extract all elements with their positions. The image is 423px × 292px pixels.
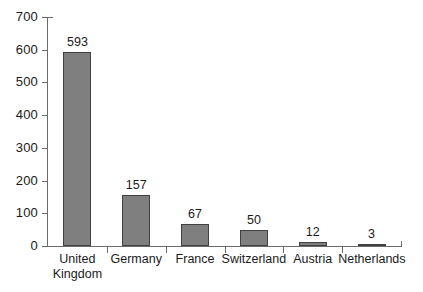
bar-value-label: 50 (247, 214, 261, 227)
x-axis-tick (283, 247, 284, 253)
bar-value-label: 157 (126, 179, 147, 192)
plot-area: 5931576750123 (48, 17, 401, 246)
y-axis-tick (42, 181, 48, 182)
y-axis-tick (42, 50, 48, 51)
bar[interactable] (299, 242, 327, 246)
x-axis-category-label: Netherlands (338, 252, 405, 267)
x-axis-category-label: United Kingdom (44, 252, 111, 281)
bar[interactable] (122, 195, 150, 246)
y-axis-tick (42, 148, 48, 149)
y-axis-tick-label: 200 (2, 174, 38, 187)
bar[interactable] (240, 230, 268, 246)
bar-chart: 7006005004003002001000 5931576750123 Uni… (0, 0, 423, 292)
y-axis-tick (42, 82, 48, 83)
bar-slot: 12 (283, 17, 342, 246)
x-axis-tick (107, 247, 108, 253)
bar-slot: 3 (342, 17, 401, 246)
x-axis-end-tick (401, 241, 402, 247)
bar-slot: 67 (166, 17, 225, 246)
x-axis-category-labels: United KingdomGermanyFranceSwitzerlandAu… (48, 252, 401, 292)
x-axis-category-label: France (162, 252, 229, 267)
bar[interactable] (63, 52, 91, 246)
bar[interactable] (358, 244, 386, 246)
x-axis-category-label: Germany (103, 252, 170, 267)
y-axis-tick-label: 500 (2, 75, 38, 88)
x-axis-tick (225, 247, 226, 253)
y-axis-tick (42, 213, 48, 214)
bar-value-label: 67 (188, 208, 202, 221)
x-axis-category-label: Austria (279, 252, 346, 267)
y-axis-tick-label: 600 (2, 43, 38, 56)
bar-value-label: 12 (306, 226, 320, 239)
bar-value-label: 3 (368, 228, 375, 241)
y-axis-tick (42, 115, 48, 116)
bar[interactable] (181, 224, 209, 246)
bar-slot: 593 (48, 17, 107, 246)
y-axis-tick-label: 400 (2, 108, 38, 121)
y-axis-labels: 7006005004003002001000 (0, 0, 38, 292)
bar-value-label: 593 (67, 36, 88, 49)
y-axis-tick-label: 0 (2, 239, 38, 252)
x-axis-tick (166, 247, 167, 253)
x-axis-tick (342, 247, 343, 253)
x-axis-category-label: Switzerland (221, 252, 288, 267)
y-axis-tick-label: 100 (2, 206, 38, 219)
y-axis-tick (42, 17, 48, 18)
y-axis-tick-label: 700 (2, 10, 38, 23)
bar-slot: 50 (225, 17, 284, 246)
y-axis-tick (42, 246, 48, 247)
bar-slot: 157 (107, 17, 166, 246)
y-axis-tick-label: 300 (2, 141, 38, 154)
